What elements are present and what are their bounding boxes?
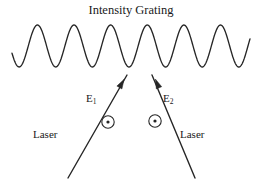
intensity-grating-wave [12, 25, 250, 67]
laser-label-right: Laser [180, 129, 204, 140]
diagram-canvas [0, 0, 262, 184]
laser-beams-group [68, 75, 195, 178]
laser-label-left: Laser [33, 129, 57, 140]
field-label-e2: E2 [163, 93, 173, 104]
polarization-markers-group [102, 115, 161, 128]
page-title: Intensity Grating [0, 4, 262, 17]
field-label-e2-symbol: E [163, 92, 170, 104]
field-label-e1: E1 [86, 93, 96, 104]
field-label-e1-subscript: 1 [93, 97, 97, 106]
field-label-e1-symbol: E [86, 92, 93, 104]
intensity-grating-diagram: Intensity Grating E1 E2 Laser Laser [0, 0, 262, 184]
field-label-e2-subscript: 2 [170, 97, 174, 106]
